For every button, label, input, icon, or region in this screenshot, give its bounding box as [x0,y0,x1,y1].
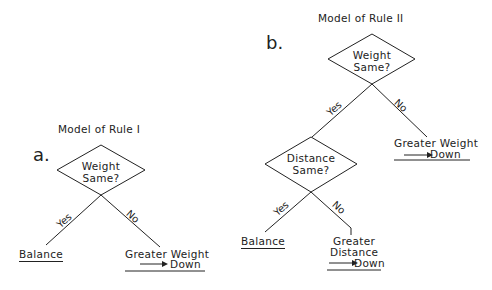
panel-a-letter: a. [33,144,50,165]
decision-distance-b-line2: Same? [281,165,341,176]
outcome-balance-a: Balance [19,249,63,262]
panel-b-letter: b. [266,32,283,53]
panel-b-title: Model of Rule II [318,13,404,24]
decision-weight-a-line2: Same? [76,173,126,184]
outcome-greater-weight-b-line2: Down [430,149,461,160]
outcome-greater-distance-b-line3: Down [354,258,385,269]
decision-distance-b-line1: Distance [281,153,341,164]
outcome-greater-weight-a-line2: Down [170,259,201,270]
decision-weight-b-line1: Weight [347,50,397,61]
decision-weight-a-line1: Weight [76,161,126,172]
decision-weight-b-line2: Same? [347,62,397,73]
outcome-balance-b: Balance [241,236,285,249]
panel-a-title: Model of Rule I [58,124,140,135]
